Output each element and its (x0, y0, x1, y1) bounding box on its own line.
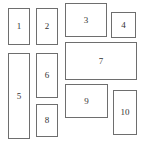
box-9: 9 (65, 84, 108, 118)
box-label: 1 (17, 22, 22, 31)
box-label: 8 (45, 116, 50, 125)
box-4: 4 (111, 12, 136, 38)
box-2: 2 (36, 8, 58, 45)
box-1: 1 (8, 8, 30, 45)
box-3: 3 (65, 3, 107, 37)
box-label: 7 (99, 57, 104, 66)
box-label: 9 (84, 97, 89, 106)
box-10: 10 (113, 90, 137, 135)
box-7: 7 (65, 42, 137, 80)
box-label: 6 (45, 71, 50, 80)
box-label: 2 (45, 22, 50, 31)
box-6: 6 (36, 53, 58, 98)
box-label: 5 (17, 92, 22, 101)
box-8: 8 (36, 104, 58, 137)
box-label: 4 (121, 21, 126, 30)
box-label: 3 (84, 16, 89, 25)
box-label: 10 (121, 108, 130, 117)
box-5: 5 (8, 53, 30, 139)
